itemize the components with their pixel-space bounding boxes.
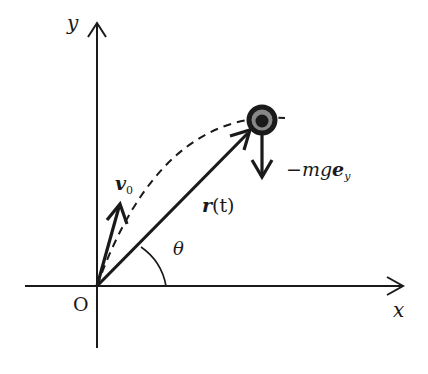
gravity-unit-symbol: e xyxy=(332,158,344,180)
trajectory-dashed-curve xyxy=(97,118,285,286)
angle-arc xyxy=(141,247,166,286)
initial-velocity-label: v0 xyxy=(115,174,133,193)
gravity-subscript: y xyxy=(344,170,350,183)
y-axis xyxy=(88,23,106,348)
initial-velocity-vector xyxy=(97,204,127,286)
x-axis-label: x xyxy=(393,300,404,320)
diagram-svg xyxy=(0,0,428,374)
mass-particle xyxy=(249,107,275,133)
position-arg: (t) xyxy=(212,194,234,216)
velocity-subscript: 0 xyxy=(126,184,133,197)
projectile-diagram: y x O v0 r(t) θ −mgey xyxy=(0,0,428,374)
gravity-force-label: −mgey xyxy=(286,160,350,179)
velocity-symbol: v xyxy=(115,172,126,194)
angle-label: θ xyxy=(173,240,184,258)
position-symbol: r xyxy=(202,194,212,216)
gravity-prefix: −mg xyxy=(286,158,332,180)
position-vector-label: r(t) xyxy=(202,196,234,215)
y-axis-label: y xyxy=(67,13,78,33)
origin-label: O xyxy=(73,295,89,314)
